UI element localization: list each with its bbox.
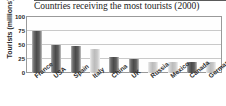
y-tick-label: 25 (1, 56, 25, 62)
y-axis-tick-labels: 100 75 50 25 0 (0, 0, 25, 106)
chart-screenshot: Countries receiving the most tourists (2… (0, 0, 226, 106)
y-tick-label: 75 (1, 28, 25, 34)
x-axis-tick-labels: FranceUSASpainItalyChinaUKRussiaMexicoCa… (27, 74, 221, 106)
y-tick-label: 50 (1, 42, 25, 48)
y-tick-label: 100 (1, 14, 25, 20)
chart-title: Countries receiving the most tourists (2… (34, 1, 224, 13)
y-tick-label: 0 (1, 70, 25, 76)
